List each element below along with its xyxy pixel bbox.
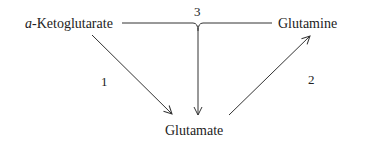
node-alpha-ketoglutarate-label: -Ketoglutarate (32, 16, 113, 31)
node-alpha-prefix: a (25, 16, 32, 31)
reaction-3-left-line (122, 23, 198, 31)
node-glutamine: Glutamine (278, 16, 337, 31)
reaction-1-label: 1 (101, 74, 108, 89)
reaction-3-right-line (198, 23, 272, 31)
pathway-diagram: a-Ketoglutarate Glutamine Glutamate 3 1 … (0, 0, 379, 144)
node-alpha-ketoglutarate: a-Ketoglutarate (25, 16, 113, 31)
reaction-2-label: 2 (308, 72, 315, 87)
reaction-2-arrow (229, 36, 310, 115)
reaction-3-label: 3 (194, 4, 201, 19)
node-glutamate: Glutamate (165, 123, 223, 138)
